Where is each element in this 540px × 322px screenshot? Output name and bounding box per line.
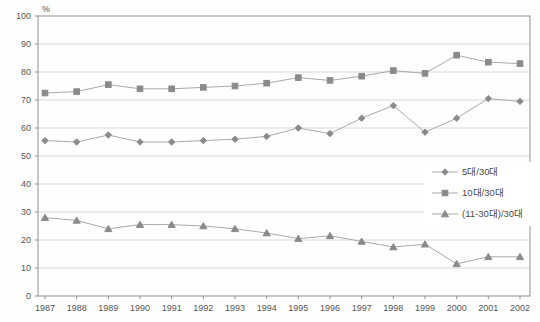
x-tick-label: 2002 (510, 303, 530, 313)
data-point-marker (137, 139, 143, 145)
data-point-marker (263, 133, 269, 139)
x-tick-label: 1996 (320, 303, 340, 313)
data-point-marker (201, 85, 207, 91)
series-1 (42, 52, 523, 95)
data-point-marker (391, 68, 397, 74)
x-tick-label: 1998 (383, 303, 403, 313)
data-point-marker (232, 83, 238, 89)
data-point-marker (200, 137, 206, 143)
x-tick-label: 1995 (288, 303, 308, 313)
y-tick-label: 100 (16, 11, 31, 21)
data-point-marker (42, 90, 48, 96)
series-line-0 (45, 99, 520, 142)
y-tick-label: 10 (21, 263, 31, 273)
data-point-marker (232, 136, 238, 142)
line-chart: 0102030405060708090100%19871988198919901… (0, 0, 540, 322)
legend: 5대/30대10대/30대(11-30대)/30대 (424, 162, 532, 226)
data-point-marker (359, 73, 365, 79)
data-point-marker (358, 115, 364, 121)
data-point-marker (517, 61, 523, 67)
x-tick-label: 1988 (67, 303, 87, 313)
y-tick-label: 80 (21, 67, 31, 77)
x-tick-label: 1992 (193, 303, 213, 313)
x-tick-label: 1991 (162, 303, 182, 313)
data-point-marker (169, 86, 175, 92)
legend-marker-icon (442, 190, 448, 196)
data-point-marker (327, 78, 333, 84)
data-point-marker (296, 75, 302, 81)
data-point-marker (454, 52, 460, 58)
data-point-marker (421, 241, 428, 247)
y-axis-unit-label: % (42, 4, 50, 14)
data-point-marker (137, 86, 143, 92)
data-point-marker (264, 80, 270, 86)
x-tick-label: 2001 (478, 303, 498, 313)
data-point-marker (486, 59, 492, 65)
x-tick-label: 1993 (225, 303, 245, 313)
data-point-marker (42, 137, 48, 143)
y-tick-label: 40 (21, 179, 31, 189)
data-point-marker (106, 82, 112, 88)
legend-label: (11-30대)/30대 (462, 208, 523, 219)
data-point-marker (73, 139, 79, 145)
y-tick-label: 20 (21, 235, 31, 245)
x-tick-label: 1987 (35, 303, 55, 313)
y-tick-label: 50 (21, 151, 31, 161)
data-point-marker (105, 132, 111, 138)
data-point-marker (41, 214, 48, 220)
data-point-marker (74, 89, 80, 95)
data-point-marker (326, 232, 333, 238)
y-tick-label: 30 (21, 207, 31, 217)
legend-label: 10대/30대 (462, 187, 504, 198)
data-point-marker (485, 95, 491, 101)
data-point-marker (453, 115, 459, 121)
x-tick-label: 1990 (130, 303, 150, 313)
series-0 (42, 95, 523, 145)
data-point-marker (517, 98, 523, 104)
x-tick-label: 1994 (257, 303, 277, 313)
x-tick-label: 1997 (352, 303, 372, 313)
legend-label: 5대/30대 (462, 166, 499, 177)
y-tick-label: 70 (21, 95, 31, 105)
y-tick-label: 0 (26, 291, 31, 301)
y-tick-label: 60 (21, 123, 31, 133)
x-tick-label: 1989 (98, 303, 118, 313)
y-tick-label: 90 (21, 39, 31, 49)
chart-page: 0102030405060708090100%19871988198919901… (0, 0, 540, 322)
series-line-1 (45, 55, 520, 93)
data-point-marker (168, 139, 174, 145)
x-tick-label: 2000 (447, 303, 467, 313)
data-point-marker (295, 125, 301, 131)
data-point-marker (422, 71, 428, 77)
data-point-marker (327, 130, 333, 136)
x-tick-label: 1999 (415, 303, 435, 313)
